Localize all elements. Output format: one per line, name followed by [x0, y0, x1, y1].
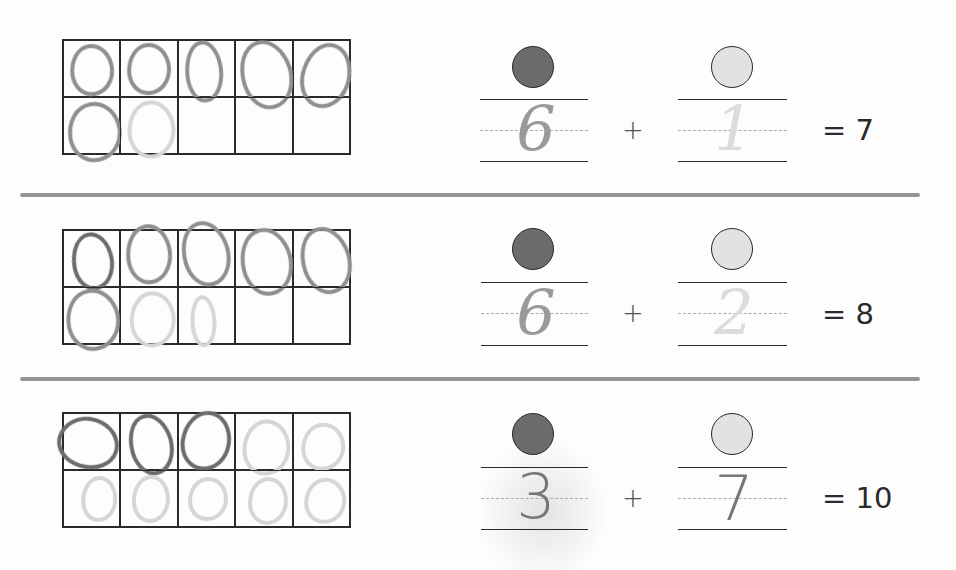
drawn-counter-icon	[188, 477, 228, 521]
drawn-counter-icon	[174, 215, 238, 292]
drawn-counter-icon	[178, 407, 236, 473]
drawn-counter-icon	[132, 475, 170, 523]
ten-frame-cell[interactable]	[178, 470, 235, 527]
ten-frame-cell[interactable]	[63, 470, 120, 527]
ten-frame-cell[interactable]	[293, 470, 350, 527]
drawn-counter-icon	[67, 229, 118, 293]
ten-frame-cell[interactable]	[63, 287, 120, 344]
drawn-counter-icon	[60, 283, 126, 355]
ten-frame	[62, 412, 351, 528]
total-label: = 10	[822, 482, 892, 514]
light-count-answer[interactable]: 7	[680, 468, 788, 530]
ten-frame-cell[interactable]	[120, 413, 177, 470]
section-divider	[20, 377, 920, 381]
dark-count-answer[interactable]: 3	[482, 466, 590, 528]
ten-frame	[62, 229, 351, 345]
drawn-counter-icon	[123, 221, 175, 285]
light-circle-icon	[711, 413, 753, 455]
drawn-counter-icon	[189, 294, 219, 348]
ten-frame-cell[interactable]	[235, 413, 292, 470]
ten-frame-cell[interactable]	[293, 287, 350, 344]
dark-circle-icon	[512, 413, 554, 455]
light-count-answer[interactable]: 2	[680, 282, 788, 344]
drawn-counter-icon	[301, 422, 345, 470]
plus-sign: +	[618, 485, 648, 511]
drawn-counter-icon	[304, 477, 346, 523]
ten-frame-cell[interactable]	[63, 230, 120, 287]
light-circle-icon	[711, 228, 753, 270]
ten-frame-cell[interactable]	[178, 287, 235, 344]
drawn-counter-icon	[128, 289, 178, 348]
ten-frame-cell[interactable]	[178, 413, 235, 470]
drawn-counter-icon	[248, 476, 288, 524]
ten-frame-cell[interactable]	[235, 230, 292, 287]
drawn-counter-icon	[242, 419, 290, 475]
dark-count-answer[interactable]: 6	[482, 282, 590, 344]
ten-frame-cell[interactable]	[120, 470, 177, 527]
ten-frame-cell[interactable]	[235, 470, 292, 527]
section-divider	[20, 193, 920, 197]
total-label: = 8	[822, 298, 874, 330]
ten-frame-cell[interactable]	[293, 230, 350, 287]
dark-circle-icon	[512, 228, 554, 270]
problem-row-3: 3 + 7 = 10	[0, 0, 956, 180]
ten-frame-cell[interactable]	[178, 230, 235, 287]
ten-frame-cell[interactable]	[63, 413, 120, 470]
ten-frame-cell[interactable]	[293, 413, 350, 470]
drawn-counter-icon	[50, 408, 125, 477]
ten-frame-cell[interactable]	[120, 287, 177, 344]
ten-frame-cell[interactable]	[120, 230, 177, 287]
ten-frame-cell[interactable]	[235, 287, 292, 344]
plus-sign: +	[618, 300, 648, 326]
drawn-counter-icon	[81, 476, 117, 522]
